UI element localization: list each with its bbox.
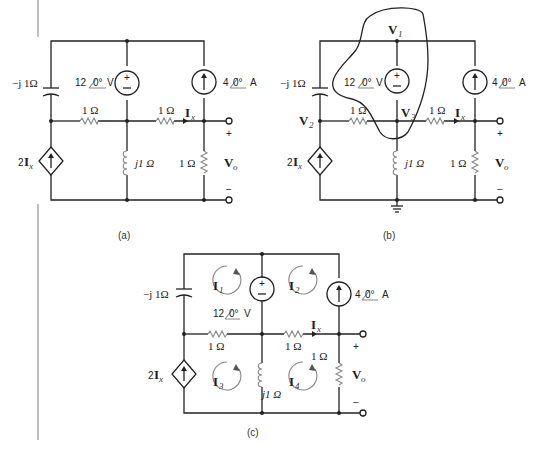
svg-text:+: + [394,70,400,81]
svg-text:j1 Ω: j1 Ω [133,157,154,169]
mesh-i4-label: I [289,374,294,389]
dependent-current-source-icon [172,360,196,388]
mesh-i2-label: I [289,278,294,293]
v2-label: V [299,113,309,128]
svg-text:1 Ω: 1 Ω [285,340,301,352]
inductor-icon [123,151,127,175]
terminal-plus [497,118,503,124]
svg-text:+: + [353,341,359,352]
circuit-b: + −j 1Ω 12 0° V 4 0° A 1 Ω 1 Ω [280,8,526,241]
svg-text:12: 12 [75,77,87,88]
svg-text:4: 4 [355,289,361,300]
svg-text:4: 4 [223,77,229,88]
svg-text:−j 1Ω: −j 1Ω [143,288,169,300]
svg-text:V: V [244,308,251,319]
svg-text:−: − [226,184,232,195]
svg-text:−j 1Ω: −j 1Ω [280,77,306,89]
dependent-current-source-icon [39,147,63,175]
dependent-current-source-icon [308,147,332,175]
inductor-icon [393,151,397,175]
svg-text:+: + [124,72,130,83]
terminal-minus [497,197,503,203]
svg-text:0°: 0° [365,289,375,300]
svg-text:4: 4 [295,381,300,391]
svg-text:0°: 0° [233,77,243,88]
resistor-icon [472,151,478,173]
svg-text:0°: 0° [502,77,512,88]
svg-text:+: + [497,128,503,139]
svg-text:1 Ω: 1 Ω [450,157,466,169]
svg-text:x: x [190,112,195,122]
svg-text:2: 2 [309,120,314,130]
svg-text:1 Ω: 1 Ω [208,340,224,352]
svg-text:+: + [226,128,232,139]
svg-text:A: A [250,77,257,88]
current-source-icon [463,70,487,94]
svg-text:+: + [259,278,265,289]
svg-text:3: 3 [410,112,416,122]
svg-text:j1 Ω: j1 Ω [403,157,424,169]
svg-text:x: x [460,112,465,122]
svg-text:4: 4 [492,77,498,88]
current-source-icon [327,282,351,306]
svg-text:1 Ω: 1 Ω [158,104,174,116]
svg-text:I: I [311,317,316,332]
resistor-icon [349,118,367,124]
svg-text:x: x [28,161,33,171]
svg-text:1: 1 [398,29,403,39]
v3-label: V [401,105,411,120]
svg-text:x: x [158,374,163,384]
caption-b: (b) [383,230,395,241]
circuit-c: + I 1 I 2 I 3 I 4 [143,252,389,438]
current-source-icon [192,70,216,94]
svg-text:0°: 0° [362,77,372,88]
terminal-plus [226,118,232,124]
svg-text:1 Ω: 1 Ω [82,104,98,116]
voltage-source-icon: + [385,69,409,93]
resistor-icon [426,118,444,124]
resistor-icon [80,118,98,124]
svg-text:o: o [233,162,238,172]
terminal-plus [360,331,366,337]
svg-text:1 Ω: 1 Ω [311,350,327,362]
voltage-source-icon: + [115,71,139,95]
svg-text:3: 3 [218,381,224,391]
mesh-i1-label: I [213,278,218,293]
svg-text:0°: 0° [229,308,239,319]
svg-text:−: − [353,397,359,408]
svg-text:I: I [455,105,460,120]
svg-text:−: − [497,184,503,195]
svg-text:o: o [504,162,509,172]
svg-text:12: 12 [344,77,356,88]
terminal-minus [360,410,366,416]
resistor-icon [156,118,174,124]
svg-text:j1 Ω: j1 Ω [260,388,281,400]
circuit-a: + −j 1Ω 12 0° V 4 0° A [12,39,257,241]
resistor-icon [336,363,342,385]
ground-icon [391,206,403,212]
svg-text:12: 12 [213,308,225,319]
terminal-minus [226,197,232,203]
svg-text:1 Ω: 1 Ω [429,104,445,116]
svg-text:1 Ω: 1 Ω [350,104,366,116]
resistor-icon [208,331,227,337]
svg-text:x: x [316,324,321,334]
voltage-source-icon: + [250,277,274,301]
svg-text:1: 1 [219,285,224,295]
svg-text:2: 2 [295,285,300,295]
svg-text:A: A [382,289,389,300]
svg-text:x: x [297,161,302,171]
caption-a: (a) [118,230,130,241]
svg-text:I: I [185,105,190,120]
mesh-i3-label: I [213,374,218,389]
svg-text:o: o [361,374,366,384]
inductor-icon [258,363,262,387]
caption-c: (c) [247,427,259,438]
capacitor-label: −j 1Ω [12,77,38,89]
svg-text:1 Ω: 1 Ω [179,157,195,169]
v1-label: V [388,22,398,37]
resistor-icon [201,151,207,173]
svg-text:0°: 0° [93,77,103,88]
resistor-icon [284,331,303,337]
svg-text:V: V [376,77,383,88]
